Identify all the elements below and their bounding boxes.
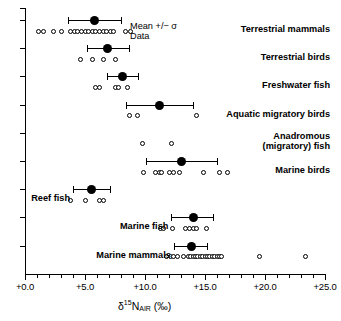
category-label-line: Freshwater fish <box>262 80 330 90</box>
category-label-line: Marine birds <box>275 165 330 175</box>
data-point <box>159 170 164 175</box>
error-bar-cap-high <box>207 243 208 250</box>
data-point <box>135 113 140 118</box>
data-point <box>90 57 95 62</box>
category-label: Aquatic migratory birds <box>226 109 330 119</box>
y-tick <box>20 161 26 162</box>
x-tick <box>109 275 110 278</box>
x-tick <box>229 275 230 278</box>
x-tick <box>157 275 158 278</box>
x-tick <box>265 275 266 280</box>
legend-label-data: Data <box>130 31 149 41</box>
y-tick <box>20 48 26 49</box>
data-point <box>51 29 56 34</box>
error-bar-cap-low <box>146 158 147 165</box>
mean-marker <box>189 213 198 222</box>
data-point <box>101 57 106 62</box>
data-point <box>194 226 199 231</box>
category-label: Freshwater fish <box>262 80 330 90</box>
y-tick <box>20 133 26 134</box>
category-label-line: Marine mammals <box>0 250 171 260</box>
x-tick <box>121 275 122 278</box>
category-label: Marine mammals <box>0 250 171 260</box>
data-point <box>101 198 106 203</box>
category-label-line: Reef fish <box>0 193 70 203</box>
x-tick-label: +15.0 <box>179 281 231 292</box>
mean-marker <box>90 16 99 25</box>
error-bar-cap-low <box>174 243 175 250</box>
x-tick <box>61 275 62 278</box>
error-bar-cap-high <box>121 17 122 24</box>
mean-marker <box>187 242 196 251</box>
error-bar-cap-high <box>193 102 194 109</box>
x-tick <box>289 275 290 278</box>
x-tick <box>169 275 170 278</box>
data-point <box>225 170 230 175</box>
data-point <box>41 29 46 34</box>
error-bar-cap-low <box>73 186 74 193</box>
x-tick <box>37 275 38 278</box>
mean-marker <box>155 101 164 110</box>
x-tick <box>25 275 26 280</box>
x-tick-label: +20.0 <box>239 281 291 292</box>
category-label: Terrestrial birds <box>261 52 330 62</box>
category-label-line: Terrestrial birds <box>261 52 330 62</box>
y-tick <box>20 217 26 218</box>
category-label-line: Aquatic migratory birds <box>226 109 330 119</box>
x-tick <box>253 275 254 278</box>
data-point <box>201 170 206 175</box>
data-point <box>111 29 116 34</box>
category-label: Marine birds <box>275 165 330 175</box>
y-tick <box>20 189 26 190</box>
error-bar-cap-low <box>87 45 88 52</box>
data-point <box>83 198 88 203</box>
data-point <box>177 170 182 175</box>
mean-marker <box>118 72 127 81</box>
x-tick <box>181 275 182 278</box>
data-point <box>59 29 64 34</box>
y-tick <box>20 8 26 9</box>
error-bar-cap-low <box>171 214 172 221</box>
data-point <box>125 85 130 90</box>
x-tick <box>325 275 326 280</box>
data-point <box>170 226 175 231</box>
mean-marker <box>177 157 186 166</box>
data-point <box>204 226 209 231</box>
data-point <box>194 113 199 118</box>
x-tick <box>97 275 98 278</box>
x-axis-title: δ15NAIR (‰) <box>118 299 171 312</box>
category-label: Terrestrial mammals <box>241 24 330 34</box>
data-point <box>169 141 174 146</box>
data-point <box>97 85 102 90</box>
x-tick <box>217 275 218 278</box>
x-tick <box>313 275 314 278</box>
x-tick-label: +10.0 <box>119 281 171 292</box>
x-tick <box>49 275 50 278</box>
error-bar-cap-high <box>213 214 214 221</box>
category-label-line: Anadromous <box>263 131 330 141</box>
x-tick <box>133 275 134 278</box>
data-point <box>140 141 145 146</box>
x-tick <box>205 275 206 280</box>
error-bar-cap-low <box>107 73 108 80</box>
data-point <box>113 57 118 62</box>
data-point <box>257 254 262 259</box>
y-tick <box>20 20 26 21</box>
x-tick <box>73 275 74 278</box>
x-tick <box>277 275 278 278</box>
data-point <box>219 254 224 259</box>
x-tick-label: +5.0 <box>59 281 111 292</box>
x-tick <box>241 275 242 278</box>
x-tick-label: +25.0 <box>299 281 341 292</box>
data-point <box>127 113 132 118</box>
data-point <box>303 254 308 259</box>
x-axis-line <box>25 274 326 275</box>
category-label: Reef fish <box>0 193 70 203</box>
x-tick <box>193 275 194 278</box>
data-point <box>141 170 146 175</box>
data-point <box>175 254 180 259</box>
data-point <box>171 170 176 175</box>
category-label-line: Terrestrial mammals <box>241 24 330 34</box>
error-bar-cap-high <box>129 45 130 52</box>
